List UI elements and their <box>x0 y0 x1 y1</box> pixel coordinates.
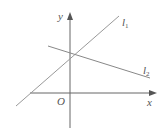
y-axis-label: y <box>58 11 63 22</box>
line-l1-label: l1 <box>122 17 129 30</box>
line-l2 <box>48 46 150 78</box>
y-axis-arrow-icon <box>67 12 73 20</box>
line-l1-subscript: 1 <box>125 22 129 30</box>
x-axis-label: x <box>147 97 152 108</box>
line-l2-subscript: 2 <box>146 70 150 78</box>
diagram-canvas: y x O l1 l2 <box>0 0 167 135</box>
diagram-svg <box>0 0 167 135</box>
line-l2-label: l2 <box>143 65 150 78</box>
origin-label: O <box>57 96 65 107</box>
